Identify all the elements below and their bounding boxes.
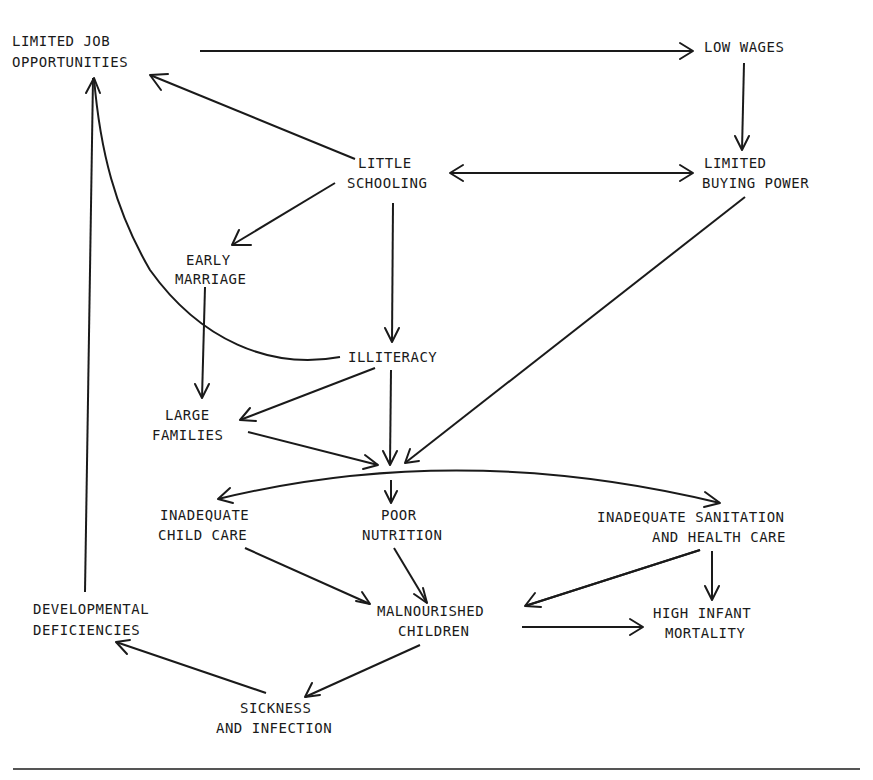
node-label-line1: DEVELOPMENTAL	[33, 601, 149, 617]
node-limited-job-opportunities: LIMITED JOB OPPORTUNITIES	[12, 33, 128, 70]
arrow-sanitation-to-malnourished	[525, 550, 700, 607]
arrow-illiteracy-to-large-families	[240, 368, 375, 421]
node-label-line1: ILLITERACY	[348, 349, 437, 365]
arrow-illiteracy-to-hub	[383, 370, 397, 465]
node-label-line2: AND HEALTH CARE	[652, 529, 786, 545]
node-large-families: LARGE FAMILIES	[152, 407, 223, 443]
arrow-schooling-to-illiteracy	[385, 203, 399, 342]
arrow-job-to-wages	[200, 43, 693, 59]
arrow-sanitation-to-mortality	[705, 551, 719, 600]
node-label-line1: LITTLE	[358, 155, 412, 171]
node-developmental-deficiencies: DEVELOPMENTAL DEFICIENCIES	[33, 601, 149, 638]
node-label-line2: DEFICIENCIES	[33, 622, 140, 638]
arrow-malnourished-to-sickness	[305, 645, 420, 697]
arrow-malnourished-to-mortality	[522, 619, 643, 635]
arrow-schooling-to-early-marriage	[232, 183, 335, 245]
node-malnourished-children: MALNOURISHED CHILDREN	[377, 603, 484, 639]
node-poor-nutrition: POOR NUTRITION	[362, 507, 442, 543]
node-label-line2: NUTRITION	[362, 527, 442, 543]
node-label-line2: MARRIAGE	[175, 271, 246, 287]
poverty-cycle-diagram: LIMITED JOB OPPORTUNITIES LOW WAGES LITT…	[0, 0, 873, 780]
node-low-wages: LOW WAGES	[704, 39, 784, 55]
node-label-line2: FAMILIES	[152, 427, 223, 443]
arrow-hub-to-poor-nutrition	[385, 480, 397, 503]
node-illiteracy: ILLITERACY	[348, 349, 437, 365]
node-early-marriage: EARLY MARRIAGE	[175, 252, 246, 287]
node-label-line2: SCHOOLING	[347, 175, 427, 191]
node-inadequate-child-care: INADEQUATE CHILD CARE	[158, 507, 249, 543]
node-sickness-and-infection: SICKNESS AND INFECTION	[216, 700, 332, 736]
arrow-large-families-to-hub	[248, 432, 378, 469]
arrow-hub-arc	[218, 470, 720, 507]
arrow-schooling-buying-bidirectional	[450, 165, 693, 181]
node-label-line1: LARGE	[165, 407, 210, 423]
arrow-nutrition-to-malnourished	[394, 548, 427, 603]
node-inadequate-sanitation-health-care: INADEQUATE SANITATION AND HEALTH CARE	[597, 509, 786, 545]
node-high-infant-mortality: HIGH INFANT MORTALITY	[653, 605, 751, 641]
arrow-child-care-to-malnourished	[245, 548, 370, 604]
node-limited-buying-power: LIMITED BUYING POWER	[702, 155, 809, 191]
node-label-line2: AND INFECTION	[216, 720, 332, 736]
node-little-schooling: LITTLE SCHOOLING	[347, 155, 427, 191]
node-label-line2: OPPORTUNITIES	[12, 54, 128, 70]
node-label-line1: MALNOURISHED	[377, 603, 484, 619]
arrow-wages-to-buying	[735, 63, 749, 150]
node-label-line2: CHILDREN	[398, 623, 469, 639]
arrow-sickness-to-developmental	[116, 640, 266, 693]
node-label-line2: MORTALITY	[665, 625, 745, 641]
arrow-schooling-to-job	[150, 74, 355, 159]
arrow-early-marriage-to-large-families	[195, 287, 209, 398]
arrow-developmental-to-job	[85, 78, 93, 592]
node-label-line2: BUYING POWER	[702, 175, 809, 191]
node-label-line1: LOW WAGES	[704, 39, 784, 55]
node-label-line1: EARLY	[186, 252, 231, 268]
node-label-line1: INADEQUATE	[160, 507, 249, 523]
node-label-line1: LIMITED JOB	[12, 33, 110, 49]
arrow-buying-to-hub	[405, 197, 745, 463]
node-label-line2: CHILD CARE	[158, 527, 247, 543]
node-label-line1: HIGH INFANT	[653, 605, 751, 621]
arrow-illiteracy-to-job-curve	[86, 78, 340, 360]
node-label-line1: INADEQUATE SANITATION	[597, 509, 785, 525]
node-label-line1: SICKNESS	[240, 700, 311, 716]
node-label-line1: LIMITED	[704, 155, 767, 171]
node-label-line1: POOR	[381, 507, 417, 523]
